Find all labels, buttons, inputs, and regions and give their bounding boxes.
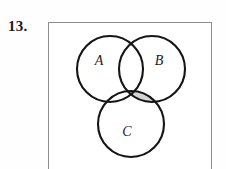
figure-page: 13. A B C bbox=[0, 0, 226, 169]
problem-number: 13. bbox=[8, 18, 27, 35]
figure-frame bbox=[48, 22, 212, 169]
